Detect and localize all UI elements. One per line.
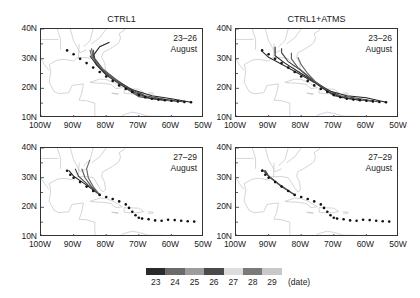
y-tick-label: 20N: [9, 201, 37, 211]
forecast-track: [90, 50, 171, 101]
colorbar-label: 23: [146, 277, 165, 287]
panel-title-ctrl1: CTRL1: [40, 14, 203, 24]
observed-track-point: [177, 100, 180, 103]
y-tick-label: 40N: [9, 23, 37, 33]
observed-track-point: [287, 66, 290, 69]
observed-track-point: [329, 214, 332, 217]
x-tick-label: 80W: [285, 239, 315, 249]
colorbar-label: 29: [262, 277, 281, 287]
observed-track-point: [267, 53, 270, 56]
observed-track-point: [333, 94, 336, 97]
x-tick-label: 80W: [90, 239, 120, 249]
observed-track-point: [313, 200, 316, 203]
x-tick-label: 100W: [220, 239, 250, 249]
colorbar-unit: (date): [288, 277, 310, 287]
colorbar-label: 26: [204, 277, 223, 287]
observed-track-point: [186, 220, 189, 223]
colorbar-label: 28: [243, 277, 262, 287]
observed-track-point: [85, 62, 88, 65]
observed-track-point: [287, 190, 290, 193]
observed-track-point: [180, 219, 183, 222]
x-tick-label: 80W: [285, 120, 315, 130]
observed-track-point: [105, 75, 108, 78]
y-tick-label: 40N: [9, 142, 37, 152]
observed-track-point: [147, 218, 150, 221]
observed-track-point: [134, 214, 137, 217]
colorbar-swatch: [146, 268, 165, 275]
y-tick-label: 30N: [9, 53, 37, 63]
y-tick-label: 20N: [204, 201, 232, 211]
observed-track-point: [313, 84, 316, 87]
observed-track-point: [167, 219, 170, 222]
observed-track-point: [131, 91, 134, 94]
date-range-annotation: 23–26August: [366, 33, 392, 55]
observed-track-point: [372, 100, 375, 103]
observed-track-point: [151, 97, 154, 100]
observed-track-point: [131, 211, 134, 214]
observed-track-point: [128, 207, 131, 210]
x-tick-label: 60W: [155, 120, 185, 130]
observed-track-point: [173, 219, 176, 222]
x-tick-label: 70W: [123, 120, 153, 130]
observed-track-point: [154, 219, 157, 222]
observed-track-point: [261, 49, 264, 52]
observed-track-point: [274, 181, 277, 184]
y-tick-label: 20N: [204, 82, 232, 92]
observed-track-point: [346, 97, 349, 100]
observed-track-point: [111, 80, 114, 83]
observed-track-point: [69, 173, 72, 176]
x-tick-label: 50W: [383, 120, 413, 130]
observed-track-point: [375, 219, 378, 222]
observed-track-point: [125, 203, 128, 206]
observed-track-point: [293, 194, 296, 197]
colorbar-label: 27: [224, 277, 243, 287]
x-tick-label: 60W: [155, 239, 185, 249]
observed-track-point: [118, 84, 121, 87]
x-tick-label: 100W: [25, 239, 55, 249]
x-tick-label: 80W: [90, 120, 120, 130]
observed-track-point: [378, 101, 381, 104]
observed-track-point: [280, 185, 283, 188]
observed-track-point: [323, 207, 326, 210]
observed-track-point: [138, 216, 141, 219]
observed-track-point: [274, 57, 277, 60]
observed-track-point: [336, 217, 339, 220]
observed-track-point: [300, 75, 303, 78]
map-panel-ctrl1-atms-23-26: 23–26August: [235, 28, 398, 117]
observed-track-point: [125, 88, 128, 91]
x-tick-label: 90W: [58, 239, 88, 249]
x-tick-label: 100W: [25, 120, 55, 130]
observed-track-point: [92, 66, 95, 69]
observed-track-point: [190, 101, 193, 104]
colorbar-label: 25: [185, 277, 204, 287]
colorbar-swatch: [165, 268, 184, 275]
observed-track-point: [72, 53, 75, 56]
x-tick-label: 70W: [123, 239, 153, 249]
observed-track-point: [339, 96, 342, 99]
x-tick-label: 70W: [318, 239, 348, 249]
date-range-annotation: 27–29August: [171, 152, 197, 174]
observed-track-point: [85, 185, 88, 188]
observed-track-point: [365, 100, 368, 103]
observed-track-point: [72, 176, 75, 179]
y-tick-label: 20N: [9, 82, 37, 92]
observed-track-point: [92, 190, 95, 193]
observed-track-point: [352, 98, 355, 101]
observed-track-point: [138, 94, 141, 97]
observed-track-point: [261, 170, 264, 173]
colorbar-labels: 23242526272829: [146, 277, 282, 287]
observed-track-point: [144, 96, 147, 99]
observed-track-point: [381, 220, 384, 223]
observed-track-point: [118, 200, 121, 203]
x-tick-label: 90W: [253, 120, 283, 130]
x-tick-label: 90W: [58, 120, 88, 130]
observed-track-point: [320, 88, 323, 91]
colorbar-swatch: [185, 268, 204, 275]
observed-track-point: [111, 198, 114, 201]
panel-title-ctrl1-atms: CTRL1+ATMS: [235, 14, 398, 24]
observed-track-point: [293, 71, 296, 74]
colorbar-label: 24: [165, 277, 184, 287]
observed-track-point: [98, 194, 101, 197]
observed-track-point: [164, 99, 167, 102]
map-panel-ctrl1-27-29: 27–29August: [40, 147, 203, 236]
